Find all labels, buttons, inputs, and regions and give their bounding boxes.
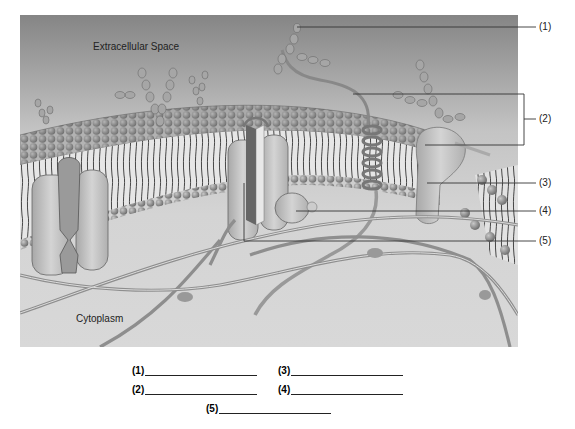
answer-blank-1[interactable]: (1)	[132, 365, 257, 376]
answer-label-4: (4)	[278, 384, 290, 395]
answer-label-2: (2)	[132, 384, 144, 395]
callout-4: (4)	[539, 205, 551, 216]
answer-blank-3[interactable]: (3)	[278, 365, 403, 376]
extracellular-space-label: Extracellular Space	[93, 41, 179, 52]
answer-label-1: (1)	[132, 365, 144, 376]
answer-line-1[interactable]	[145, 366, 257, 376]
cytoplasm-label: Cytoplasm	[76, 313, 123, 324]
membrane-illustration: Extracellular Space Cytoplasm	[20, 15, 518, 347]
answer-blank-5[interactable]: (5)	[206, 403, 331, 414]
callout-5: (5)	[539, 235, 551, 246]
answer-label-5: (5)	[206, 403, 218, 414]
answer-blank-4[interactable]: (4)	[278, 384, 403, 395]
membrane-art	[20, 15, 518, 347]
answer-line-4[interactable]	[291, 385, 403, 395]
answer-label-3: (3)	[278, 365, 290, 376]
callout-3: (3)	[539, 177, 551, 188]
answer-line-5[interactable]	[219, 404, 331, 414]
callout-2: (2)	[539, 113, 551, 124]
callout-1: (1)	[539, 21, 551, 32]
answer-line-3[interactable]	[291, 366, 403, 376]
answer-line-2[interactable]	[145, 385, 257, 395]
answer-blank-2[interactable]: (2)	[132, 384, 257, 395]
